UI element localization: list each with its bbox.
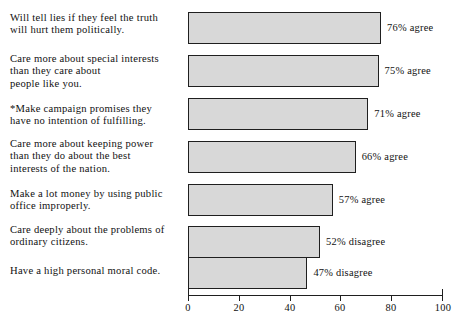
x-axis-tick-label-80: 80 — [386, 302, 397, 314]
x-axis-tick-label-60: 60 — [335, 302, 346, 314]
category-label-0: Will tell lies if they feel the truth wi… — [10, 12, 186, 37]
bar-value-4: 57% agree — [339, 194, 385, 206]
bar-value-1: 75% agree — [385, 65, 431, 77]
bar-value-6: 47% disagree — [313, 267, 372, 279]
bar-5 — [188, 226, 320, 258]
x-axis-tick-label-20: 20 — [234, 302, 245, 314]
x-axis-tick-20 — [239, 295, 240, 301]
bar-0 — [188, 12, 381, 44]
category-label-4: Make a lot money by using public office … — [10, 188, 186, 213]
x-axis-tick-60 — [340, 295, 341, 301]
bar-1 — [188, 55, 379, 87]
bar-value-5: 52% disagree — [326, 236, 385, 248]
x-axis-tick-label-100: 100 — [435, 302, 452, 314]
bar-value-3: 66% agree — [362, 151, 408, 163]
category-label-3: Care more about keeping power than they … — [10, 138, 186, 175]
x-axis-tick-0 — [188, 295, 189, 301]
bar-value-2: 71% agree — [374, 108, 420, 120]
x-axis-line — [188, 295, 443, 296]
bar-2 — [188, 98, 368, 130]
x-axis-tick-label-40: 40 — [285, 302, 296, 314]
category-label-2: *Make campaign promises they have no int… — [10, 103, 186, 128]
x-axis-tick-80 — [391, 295, 392, 301]
plot-area: 76% agree 75% agree 71% agree 66% agree … — [188, 0, 442, 295]
horizontal-bar-chart: Will tell lies if they feel the truth wi… — [0, 0, 460, 333]
bar-4 — [188, 184, 333, 216]
category-label-1: Care more about special interests than t… — [10, 53, 186, 90]
bar-value-0: 76% agree — [387, 22, 433, 34]
x-axis-tick-40 — [290, 295, 291, 301]
x-axis-tick-label-0: 0 — [185, 302, 191, 314]
x-axis-tick-100 — [442, 295, 443, 301]
bar-3 — [188, 141, 356, 173]
category-label-6: Have a high personal moral code. — [10, 265, 186, 277]
bar-6 — [188, 257, 307, 289]
category-label-5: Care deeply about the problems of ordina… — [10, 224, 186, 249]
